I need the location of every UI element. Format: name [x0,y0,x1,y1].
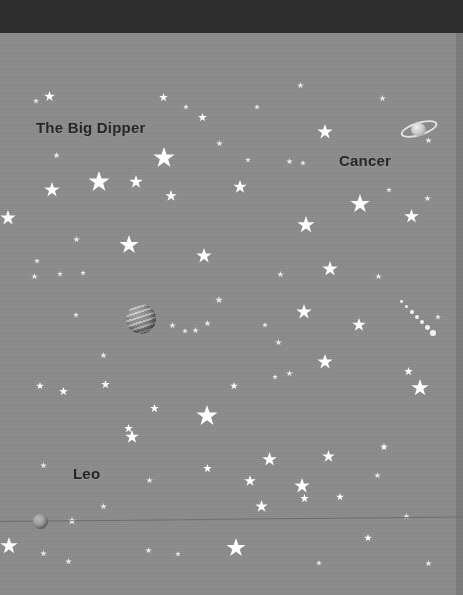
ringed-planet [400,116,438,142]
comet-trail-dot [425,325,430,330]
night-sky-scene: The Big Dipper Cancer Leo [0,0,463,595]
constellation-label-cancer: Cancer [339,152,391,169]
comet-trail-dot [415,315,419,319]
comet-trail-dot [400,300,403,303]
comet-trail-dot [410,310,414,314]
constellation-label-leo: Leo [73,465,100,482]
banded-planet [126,304,156,334]
comet-trail-dot [430,330,436,336]
sky-background [0,33,456,595]
small-moon [33,514,48,529]
planet-body [411,123,426,136]
right-edge-strip [456,33,463,595]
top-dark-band [0,0,463,33]
constellation-label-big-dipper: The Big Dipper [36,119,145,136]
